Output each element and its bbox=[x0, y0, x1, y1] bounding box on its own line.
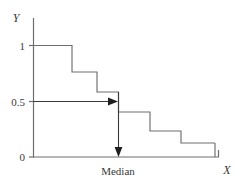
x-axis-label: X bbox=[222, 163, 231, 177]
y-tick-label-0point5: 0.5 bbox=[11, 96, 25, 108]
y-tick-label-0: 0 bbox=[20, 151, 26, 163]
median-annotation-group bbox=[34, 92, 123, 157]
step-function-chart: Y X 1 0.5 0 Median bbox=[0, 0, 235, 192]
median-vertical-arrow-head bbox=[115, 147, 123, 157]
y-tick-label-1: 1 bbox=[20, 40, 26, 52]
median-label: Median bbox=[101, 165, 135, 177]
median-horizontal-arrow-head bbox=[108, 98, 118, 106]
y-axis-label: Y bbox=[13, 11, 21, 25]
axes-group bbox=[33, 18, 219, 158]
y-tick-marks bbox=[29, 46, 34, 158]
chart-canvas: Y X 1 0.5 0 Median bbox=[0, 0, 235, 192]
